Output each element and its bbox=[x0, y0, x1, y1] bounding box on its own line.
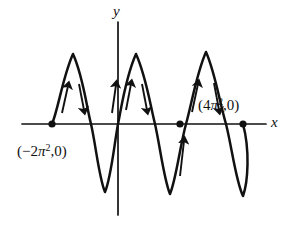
label-left-close: ,0) bbox=[50, 143, 66, 160]
y-axis-label: y bbox=[111, 3, 120, 19]
label-right-open: (4 bbox=[198, 97, 211, 114]
arrow-rising-1 bbox=[62, 86, 68, 113]
label-right-intercept: (4π2,0) bbox=[198, 96, 239, 114]
label-right-close: ,0) bbox=[223, 97, 239, 114]
axes-group bbox=[22, 22, 266, 215]
x-axis-label: x bbox=[270, 114, 278, 130]
label-left-open: (−2 bbox=[17, 143, 38, 160]
arrow-rising-2 bbox=[112, 85, 116, 113]
arrow-rising-3 bbox=[126, 84, 131, 110]
graph-figure: x y (−2π2,0) (4π2,0) bbox=[0, 0, 287, 230]
point-right-intercept bbox=[239, 120, 246, 127]
point-left-intercept bbox=[48, 120, 55, 127]
label-left-intercept: (−2π2,0) bbox=[17, 142, 67, 160]
point-middle-intercept bbox=[176, 120, 183, 127]
figure-container: x y (−2π2,0) (4π2,0) bbox=[0, 0, 287, 230]
